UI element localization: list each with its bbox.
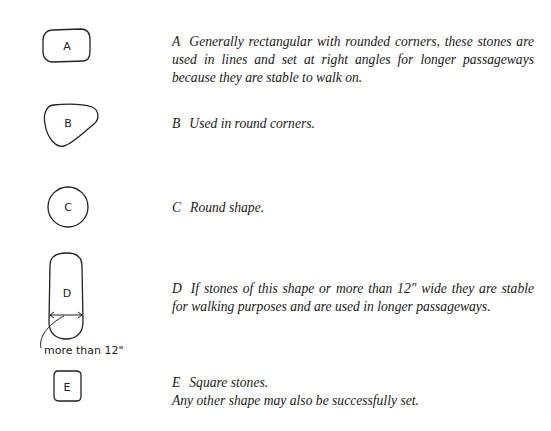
description-a-letter: A xyxy=(172,34,180,49)
description-e-letter: E xyxy=(172,375,180,390)
description-c: CRound shape. xyxy=(172,199,534,217)
description-b-letter: B xyxy=(172,116,180,131)
shape-c-label: C xyxy=(64,201,72,214)
description-d-letter: D xyxy=(172,281,182,296)
description-b: BUsed in round corners. xyxy=(172,115,534,133)
shape-e-label: E xyxy=(64,381,71,394)
description-c-letter: C xyxy=(172,200,181,215)
description-e-extra: Any other shape may also be successfully… xyxy=(172,392,534,410)
shape-a-label: A xyxy=(63,40,71,53)
description-b-text: Used in round corners. xyxy=(189,116,315,131)
description-e-text: Square stones. xyxy=(189,375,268,390)
d-width-note: more than 12" xyxy=(44,344,124,357)
description-e: ESquare stones. Any other shape may also… xyxy=(172,374,534,410)
description-d-text: If stones of this shape or more than 12"… xyxy=(172,281,534,314)
description-c-text: Round shape. xyxy=(190,200,264,215)
shape-b-label: B xyxy=(64,117,72,130)
description-a: AGenerally rectangular with rounded corn… xyxy=(172,33,534,87)
description-a-text: Generally rectangular with rounded corne… xyxy=(172,34,534,85)
description-d: DIf stones of this shape or more than 12… xyxy=(172,280,534,316)
shape-d-label: D xyxy=(63,287,71,300)
